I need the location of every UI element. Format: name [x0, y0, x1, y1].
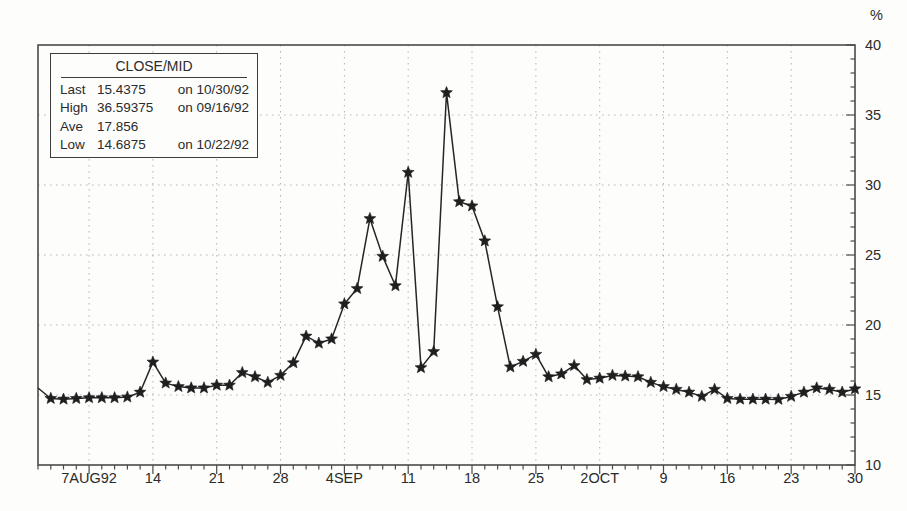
legend-last-value: 15.4375: [97, 81, 173, 100]
legend-ave-label: Ave: [60, 118, 97, 137]
data-point-marker: [734, 393, 746, 404]
legend-low-date: on 10/22/92: [173, 136, 249, 155]
data-point-marker: [83, 392, 95, 403]
data-point-marker: [390, 280, 402, 291]
legend-rows: Last 15.4375 on 10/30/92 High 36.59375 o…: [51, 80, 257, 157]
data-point-marker: [300, 330, 312, 341]
chart-page: 10152025303540%7AUG921421284SEP1118252OC…: [0, 0, 907, 511]
x-tick-label: 11: [401, 470, 416, 486]
data-point-marker: [683, 386, 695, 397]
legend-last-date: on 10/30/92: [173, 81, 249, 100]
legend-row-low: Low 14.6875 on 10/22/92: [60, 136, 249, 155]
y-tick-label: 15: [865, 387, 881, 403]
legend-title: CLOSE/MID: [61, 54, 247, 78]
data-point-marker: [109, 392, 121, 403]
data-point-marker: [249, 371, 261, 382]
y-tick-label: 20: [865, 317, 881, 333]
data-point-marker: [134, 386, 146, 397]
data-point-marker: [160, 377, 172, 388]
x-tick-label: 23: [783, 470, 799, 486]
data-point-marker: [198, 382, 210, 393]
data-point-marker: [147, 356, 159, 367]
x-tick-label: 4SEP: [326, 470, 363, 486]
data-point-marker: [504, 361, 516, 372]
y-tick-label: 35: [865, 107, 881, 123]
data-point-marker: [70, 392, 82, 403]
legend-ave-date: [173, 118, 249, 137]
data-point-marker: [658, 380, 670, 391]
y-tick-label: 10: [865, 457, 881, 473]
data-point-marker: [721, 392, 733, 403]
legend-low-value: 14.6875: [97, 136, 173, 155]
data-point-marker: [619, 370, 631, 381]
x-tick-label: 9: [659, 470, 667, 486]
data-point-marker: [326, 333, 338, 344]
data-point-marker: [185, 382, 197, 393]
data-point-marker: [45, 392, 57, 403]
data-point-marker: [824, 383, 836, 394]
data-point-marker: [173, 380, 185, 391]
legend-row-ave: Ave 17.856: [60, 118, 249, 137]
x-tick-label: 21: [209, 470, 225, 486]
x-tick-label: 18: [464, 470, 480, 486]
legend-row-last: Last 15.4375 on 10/30/92: [60, 81, 249, 100]
data-point-marker: [96, 392, 108, 403]
data-point-marker: [747, 393, 759, 404]
data-point-marker: [262, 376, 274, 387]
x-tick-label: 30: [847, 470, 863, 486]
data-point-marker: [607, 369, 619, 380]
legend-low-label: Low: [60, 136, 97, 155]
data-point-marker: [696, 390, 708, 401]
data-point-marker: [543, 371, 555, 382]
data-point-marker: [798, 386, 810, 397]
data-point-marker: [466, 200, 478, 211]
x-tick-label: 25: [528, 470, 544, 486]
y-tick-label: 40: [865, 37, 881, 53]
legend-last-label: Last: [60, 81, 97, 100]
data-point-marker: [811, 382, 823, 393]
data-point-marker: [453, 196, 465, 207]
data-point-marker: [377, 250, 389, 261]
y-tick-label: 30: [865, 177, 881, 193]
legend-row-high: High 36.59375 on 09/16/92: [60, 99, 249, 118]
x-tick-label: 2OCT: [580, 470, 619, 486]
data-point-marker: [632, 371, 644, 382]
data-point-marker: [58, 393, 70, 404]
data-point-marker: [645, 376, 657, 387]
legend-high-date: on 09/16/92: [173, 99, 249, 118]
data-point-marker: [556, 368, 568, 379]
data-point-marker: [313, 337, 325, 348]
data-point-marker: [211, 379, 223, 390]
data-point-marker: [351, 282, 363, 293]
data-point-marker: [517, 355, 529, 366]
legend-high-value: 36.59375: [97, 99, 173, 118]
data-point-marker: [670, 383, 682, 394]
data-point-marker: [760, 393, 772, 404]
x-tick-label: 7AUG92: [61, 470, 117, 486]
x-tick-label: 14: [145, 470, 161, 486]
data-point-marker: [428, 345, 440, 356]
x-tick-label: 16: [719, 470, 735, 486]
x-tick-label: 28: [272, 470, 288, 486]
legend-high-label: High: [60, 99, 97, 118]
y-axis-unit-label: %: [870, 7, 883, 23]
legend-ave-value: 17.856: [97, 118, 173, 137]
data-point-marker: [122, 391, 134, 402]
y-tick-label: 25: [865, 247, 881, 263]
legend-box: CLOSE/MID Last 15.4375 on 10/30/92 High …: [50, 53, 258, 158]
